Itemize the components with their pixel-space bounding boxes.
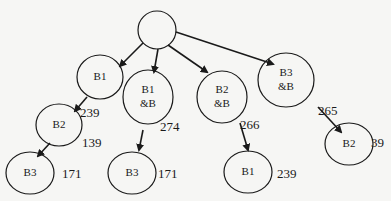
node-label-2: &B	[140, 97, 156, 109]
node-b2r: B2	[325, 123, 373, 165]
cost-value: 265	[318, 103, 338, 118]
cost-value: 274	[160, 119, 180, 134]
cost-value: 139	[82, 135, 102, 150]
node-label-2: &B	[214, 97, 230, 109]
node-b3l: B3	[6, 152, 54, 194]
cost-value: 171	[62, 166, 82, 181]
node-root	[138, 11, 176, 49]
node-b3b: B3&B	[258, 53, 314, 107]
tree-diagram: B1B1&BB2&BB3&BB2B3B3B1B2 239139171274171…	[0, 0, 391, 201]
cost-value: 171	[158, 166, 178, 181]
node-label: B2	[343, 137, 356, 149]
edge-b1b-b3m	[139, 130, 143, 150]
node-label: B1	[242, 165, 255, 177]
cost-value: 239	[80, 105, 100, 120]
cost-value: 239	[277, 166, 297, 181]
node-ellipse	[138, 11, 176, 49]
node-label: B3	[24, 166, 37, 178]
node-label: B3	[280, 66, 293, 78]
node-label: B2	[216, 83, 229, 95]
node-b2l: B2	[36, 104, 82, 146]
edge-root-b2b	[168, 45, 207, 72]
node-b2b: B2&B	[197, 71, 247, 123]
node-b3m: B3	[108, 152, 156, 194]
node-b1r: B1	[224, 151, 272, 193]
values-group: 23913917127417126623926539	[62, 103, 384, 181]
cost-value: 39	[371, 135, 384, 150]
node-label: B2	[53, 118, 66, 130]
node-label: B1	[94, 70, 107, 82]
edge-root-b1b	[154, 49, 158, 72]
edge-root-b3b	[176, 32, 273, 64]
node-b1b: B1&B	[123, 70, 173, 124]
node-b1: B1	[77, 55, 123, 99]
diagram-canvas: B1B1&BB2&BB3&BB2B3B3B1B2 239139171274171…	[0, 0, 391, 201]
edge-root-b1	[120, 43, 143, 66]
node-label: B1	[142, 83, 155, 95]
node-label: B3	[126, 166, 139, 178]
node-label-2: &B	[278, 80, 294, 92]
cost-value: 266	[240, 117, 260, 132]
